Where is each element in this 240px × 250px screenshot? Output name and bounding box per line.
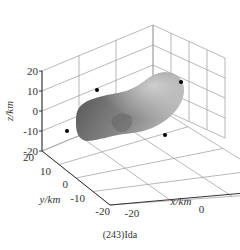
x-tick-label: 0: [199, 203, 205, 215]
grid-line-back-left-z: [42, 45, 153, 91]
marker-point: [65, 129, 69, 133]
marker-point: [179, 80, 183, 84]
ida-3d-plot: 20100-10-2020100-10-20-20020 (243)Ida z/…: [0, 0, 240, 250]
y-tick-label: -10: [70, 192, 85, 204]
z-tick-label: 20: [27, 65, 39, 77]
z-tick-label: 10: [27, 85, 39, 97]
marker-point: [95, 88, 99, 92]
y-tick-label: 20: [23, 151, 35, 163]
z-tick-label: 0: [33, 105, 39, 117]
x-tick-label: -20: [125, 207, 140, 219]
caption: (243)Ida: [103, 229, 138, 241]
asteroid-surface: [76, 72, 184, 141]
y-axis-label: y/km: [39, 193, 61, 205]
grid-line-floor-y: [93, 170, 240, 191]
marker-point: [163, 133, 167, 137]
z-tick-label: -10: [23, 125, 38, 137]
y-tick-label: 10: [40, 165, 52, 177]
ida-highlight: [76, 72, 184, 141]
y-tick-label: -20: [95, 205, 110, 217]
x-axis-label: x/km: [170, 195, 192, 207]
y-tick-label: 0: [63, 178, 69, 190]
z-axis-label: z/km: [3, 101, 15, 122]
grid-line-back-left-z: [42, 25, 153, 71]
